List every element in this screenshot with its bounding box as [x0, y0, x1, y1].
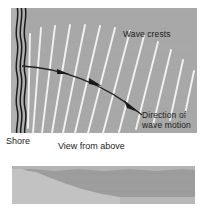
profile-view-panel — [12, 166, 195, 204]
direction-of-wave-motion-label: Direction of wave motion — [142, 111, 191, 131]
direction-label-line2: wave motion — [142, 120, 191, 130]
view-from-above-caption: View from above — [58, 141, 125, 151]
shore-caption: Shore — [6, 136, 30, 146]
plan-view-panel: Wave crests Direction of wave motion — [11, 8, 197, 133]
profile-bottom-strip — [120, 197, 195, 204]
direction-label-line1: Direction of — [142, 110, 186, 120]
wave-crests-label: Wave crests — [123, 30, 171, 40]
profile-view-canvas — [12, 166, 195, 204]
